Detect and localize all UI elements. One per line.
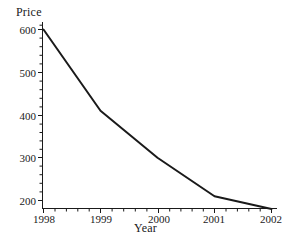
x-tick-label-2000: 2000 [139, 213, 179, 225]
y-tick-label-500: 500 [8, 67, 36, 79]
x-tick-label-2001: 2001 [194, 213, 234, 225]
y-tick-label-400: 400 [8, 110, 36, 122]
x-tick-label-1998: 1998 [24, 213, 64, 225]
chart-plot-area [0, 0, 290, 242]
y-tick-label-600: 600 [8, 24, 36, 36]
y-axis-title: Price [16, 5, 42, 20]
plot-background [0, 0, 290, 242]
y-tick-label-300: 300 [8, 152, 36, 164]
y-tick-label-200: 200 [8, 195, 36, 207]
x-tick-label-1999: 1999 [81, 213, 121, 225]
x-tick-label-2002: 2002 [251, 213, 290, 225]
line-chart: Price Year 600 500 400 300 200 1998 1999… [0, 0, 290, 242]
